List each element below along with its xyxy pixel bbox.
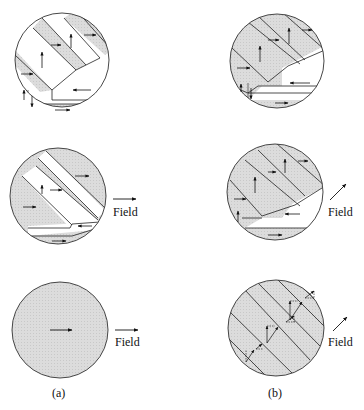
panel-a1 bbox=[5, 10, 120, 125]
field-arrow-b2: Field bbox=[328, 184, 353, 219]
field-arrow-b3: Field bbox=[328, 317, 353, 349]
caption-a: (a) bbox=[52, 386, 65, 400]
caption-b: (b) bbox=[268, 386, 282, 400]
field-arrow-a3: Field bbox=[115, 330, 140, 349]
field-label-b3: Field bbox=[328, 335, 353, 349]
panel-b1 bbox=[225, 10, 335, 120]
field-label-a3: Field bbox=[115, 335, 140, 349]
panel-b2 bbox=[225, 140, 335, 250]
field-label-b2: Field bbox=[328, 205, 353, 219]
panel-a2 bbox=[5, 145, 115, 255]
panel-b3 bbox=[225, 275, 335, 385]
field-label-a2: Field bbox=[113, 205, 138, 219]
magnetic-domains-diagram: Field Field Field ( bbox=[0, 0, 364, 410]
panel-a3 bbox=[12, 282, 108, 378]
field-arrow-a2: Field bbox=[113, 199, 138, 219]
